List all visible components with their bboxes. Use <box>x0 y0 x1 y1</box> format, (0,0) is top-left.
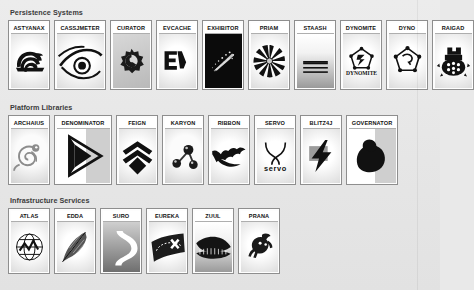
sparkle-trail-icon <box>205 34 242 88</box>
project-card-dynomite[interactable]: DYNOMITE DYNOMITE <box>340 20 382 90</box>
project-card-denominator[interactable]: DENOMINATOR <box>54 115 112 185</box>
project-card-karyon[interactable]: KARYON <box>162 115 204 185</box>
project-card-label: RAIGAD <box>435 23 472 34</box>
project-card-edda[interactable]: EDDA <box>54 208 96 274</box>
project-card-label: BLITZ4J <box>303 118 340 129</box>
project-card-curator[interactable]: CURATOR <box>110 20 152 90</box>
project-card-label: DENOMINATOR <box>57 118 110 129</box>
project-card-blitz4j[interactable]: BLITZ4J <box>300 115 342 185</box>
project-card-label: ZUUL <box>195 211 232 222</box>
chameleon-icon <box>11 129 48 183</box>
monkey-icon <box>241 222 278 272</box>
svg-text:DYNOMITE: DYNOMITE <box>345 70 376 76</box>
treasure-map-icon <box>149 222 186 272</box>
project-card-cassjmeter[interactable]: CASSJMETER <box>54 20 106 90</box>
project-card-label: EVCACHE <box>159 23 196 34</box>
servo-wordmark-icon: servo <box>257 129 294 183</box>
feather-icon <box>57 222 94 272</box>
project-card-prana[interactable]: PRANA <box>238 208 280 274</box>
project-card-label: ASTYANAX <box>11 23 48 34</box>
stacked-disks-icon <box>297 34 334 88</box>
section-title: Platform Libraries <box>10 103 398 112</box>
project-card-priam[interactable]: PRIAM <box>248 20 290 90</box>
project-card-eureka[interactable]: EUREKA <box>146 208 188 274</box>
project-card-atlas[interactable]: ATLAS <box>8 208 50 274</box>
winding-road-icon <box>103 222 140 272</box>
spartan-helmet-icon <box>11 34 48 88</box>
card-row: ARCHAIUS DENOMINATOR FEIGN KARYON RIBBON… <box>8 115 398 185</box>
lightning-bolt-icon <box>303 129 340 183</box>
globe-chart-icon <box>11 222 48 272</box>
flexed-arm-icon <box>349 129 396 183</box>
project-card-label: FEIGN <box>119 118 156 129</box>
project-card-label: STAASH <box>297 23 334 34</box>
project-card-evcache[interactable]: EVCACHE <box>156 20 198 90</box>
eye-icon <box>57 34 104 88</box>
project-card-astyanax[interactable]: ASTYANAX <box>8 20 50 90</box>
section-persistence-systems: Persistence Systems ASTYANAX CASSJMETER … <box>8 8 474 90</box>
project-card-archaius[interactable]: ARCHAIUS <box>8 115 50 185</box>
gatekeeper-icon <box>195 222 232 272</box>
project-card-label: KARYON <box>165 118 202 129</box>
ribbon-bat-icon <box>211 129 248 183</box>
project-card-servo[interactable]: SERVO servo <box>254 115 296 185</box>
card-row: ATLAS EDDA SURO EUREKA ZUUL PRANA <box>8 208 280 274</box>
project-card-label: RIBBON <box>211 118 248 129</box>
chevrons-icon <box>119 129 156 183</box>
section-platform-libraries: Platform Libraries ARCHAIUS DENOMINATOR … <box>8 103 398 185</box>
project-card-label: SURO <box>103 211 140 222</box>
project-card-label: PRANA <box>241 211 278 222</box>
project-card-label: ARCHAIUS <box>11 118 48 129</box>
project-card-label: CASSJMETER <box>57 23 104 34</box>
project-card-label: GOVERNATOR <box>349 118 396 129</box>
card-row: ASTYANAX CASSJMETER CURATOR EVCACHE EXHI… <box>8 20 474 90</box>
molecule-node-icon <box>389 34 426 88</box>
project-card-label: CURATOR <box>113 23 150 34</box>
project-card-ribbon[interactable]: RIBBON <box>208 115 250 185</box>
project-card-label: SERVO <box>257 118 294 129</box>
project-card-feign[interactable]: FEIGN <box>116 115 158 185</box>
project-card-raigad[interactable]: RAIGAD <box>432 20 474 90</box>
project-card-governator[interactable]: GOVERNATOR <box>346 115 398 185</box>
fortress-turtle-icon <box>435 34 472 88</box>
svg-text:servo: servo <box>264 163 287 172</box>
project-card-label: EDDA <box>57 211 94 222</box>
project-card-label: PRIAM <box>251 23 288 34</box>
section-infrastructure-services: Infrastructure Services ATLAS EDDA SURO … <box>8 196 280 274</box>
project-card-exhibitor[interactable]: EXHIBITOR <box>202 20 244 90</box>
gear-icon <box>113 34 150 88</box>
project-card-label: ATLAS <box>11 211 48 222</box>
project-card-staash[interactable]: STAASH <box>294 20 336 90</box>
project-card-zuul[interactable]: ZUUL <box>192 208 234 274</box>
project-card-label: EXHIBITOR <box>205 23 242 34</box>
project-card-label: DYNO <box>389 23 426 34</box>
project-card-label: EUREKA <box>149 211 186 222</box>
dynamite-badge-icon: DYNOMITE <box>343 34 380 88</box>
atom-spheres-icon <box>165 129 202 183</box>
project-card-suro[interactable]: SURO <box>100 208 142 274</box>
section-title: Infrastructure Services <box>10 196 280 205</box>
project-card-label: DYNOMITE <box>343 23 380 34</box>
section-title: Persistence Systems <box>10 8 474 17</box>
starburst-icon <box>251 34 288 88</box>
triangle-arrow-icon <box>57 129 110 183</box>
ev-monogram-icon <box>159 34 196 88</box>
project-card-dyno[interactable]: DYNO <box>386 20 428 90</box>
